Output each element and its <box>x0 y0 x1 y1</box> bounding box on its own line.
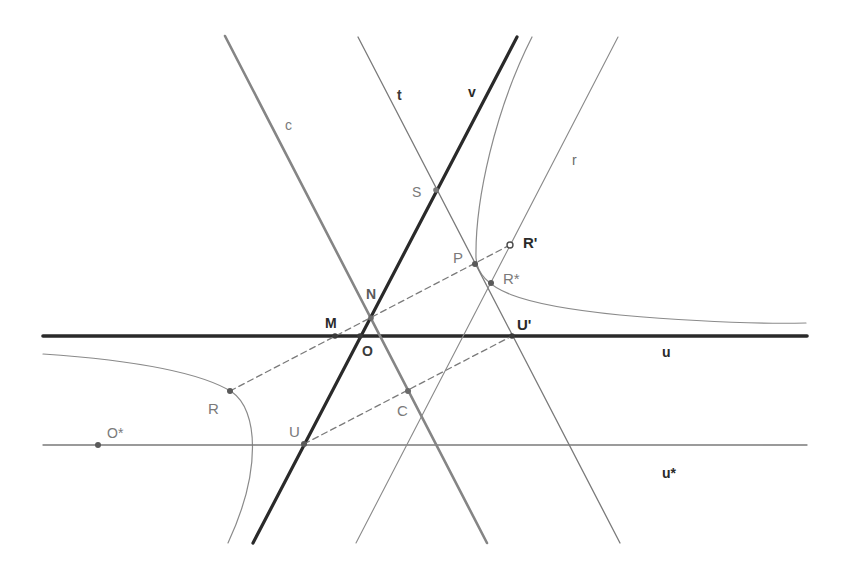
diagram-background <box>0 0 846 580</box>
diagram-svg: ctvrSPR'R*NMOU'uRCUO*u* <box>0 0 846 580</box>
label-t: t <box>397 87 402 103</box>
point-R-star <box>488 280 494 286</box>
point-R-prime <box>507 242 513 248</box>
geometry-diagram: ctvrSPR'R*NMOU'uRCUO*u* <box>0 0 846 580</box>
point-U <box>301 441 307 447</box>
point-O <box>357 333 363 339</box>
point-P <box>472 261 478 267</box>
point-U-prime <box>509 333 515 339</box>
label-P: P <box>453 249 463 266</box>
point-R <box>227 388 233 394</box>
label-r: r <box>572 152 577 168</box>
label-U-prime: U' <box>517 316 531 333</box>
point-M <box>332 333 338 339</box>
label-u: u <box>662 344 671 360</box>
point-N <box>368 315 374 321</box>
point-S <box>433 187 439 193</box>
label-N: N <box>366 286 376 302</box>
label-R-star: R* <box>503 270 520 287</box>
label-C: C <box>397 402 408 419</box>
label-R: R <box>208 400 219 417</box>
label-O-star: O* <box>107 425 124 441</box>
label-S: S <box>412 184 421 200</box>
label-u-star: u* <box>662 465 677 481</box>
label-U: U <box>289 423 300 440</box>
label-v: v <box>468 84 476 100</box>
label-O: O <box>362 343 373 359</box>
label-M: M <box>325 315 337 331</box>
point-O-star <box>95 442 101 448</box>
point-C <box>405 388 411 394</box>
label-R-prime: R' <box>523 234 537 251</box>
label-c: c <box>285 117 292 133</box>
